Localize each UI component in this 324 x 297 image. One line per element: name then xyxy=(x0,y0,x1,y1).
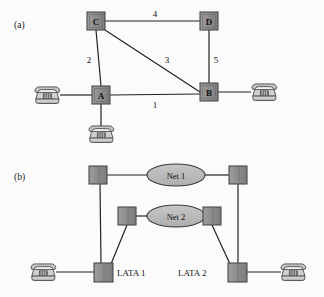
phone-right-b-icon xyxy=(252,84,277,101)
node-A-label: A xyxy=(98,91,105,101)
phone-base xyxy=(32,276,55,281)
switch-mid-left-box[interactable] xyxy=(118,207,136,225)
net-1-cloud[interactable]: Net 1 xyxy=(147,164,205,186)
phone-right-b2-icon xyxy=(281,264,306,281)
node-C-label: C xyxy=(93,17,100,27)
edge-switch-top-left-lata-1 xyxy=(100,184,101,263)
node-C[interactable]: C xyxy=(87,12,105,30)
lata-2-label: LATA 2 xyxy=(178,268,207,278)
phone-handset xyxy=(35,87,60,93)
net-2-cloud[interactable]: Net 2 xyxy=(147,205,205,227)
phone-handset xyxy=(252,84,277,90)
figure-container: (a) 4 2 3 5 1 C D xyxy=(0,0,324,297)
edge-label-D-B: 5 xyxy=(214,55,219,65)
net-2-label: Net 2 xyxy=(167,212,186,222)
edge-C-B xyxy=(105,30,200,92)
panel-a-edges xyxy=(60,21,251,126)
edge-switch-mid-left-lata-1 xyxy=(111,225,127,264)
switch-top-left-box[interactable] xyxy=(89,166,107,184)
switch-lata-2[interactable] xyxy=(228,263,247,282)
edge-A-B xyxy=(110,94,200,95)
phone-base xyxy=(282,276,305,281)
edge-C-A xyxy=(96,30,101,86)
panel-b: (b) Net 1 xyxy=(14,164,306,282)
node-D-label: D xyxy=(206,17,213,27)
node-A[interactable]: A xyxy=(92,86,110,104)
phone-left-b-icon xyxy=(31,264,56,281)
lata-1-label: LATA 1 xyxy=(117,268,146,278)
switch-lata-2-box[interactable] xyxy=(228,263,247,282)
switch-lata-1[interactable] xyxy=(94,263,113,282)
phone-base xyxy=(90,138,113,143)
phone-base xyxy=(253,96,276,101)
edge-switch-mid-right-lata-2 xyxy=(212,225,230,264)
figure-canvas: (a) 4 2 3 5 1 C D xyxy=(0,0,324,297)
switch-lata-1-box[interactable] xyxy=(94,263,113,282)
panel-b-label: (b) xyxy=(14,172,25,183)
phone-left-a-icon xyxy=(35,87,60,104)
switch-top-right[interactable] xyxy=(229,166,247,184)
edge-label-A-B: 1 xyxy=(153,100,158,110)
node-D[interactable]: D xyxy=(200,12,218,30)
panel-a: (a) 4 2 3 5 1 C D xyxy=(14,9,277,142)
switch-mid-right-box[interactable] xyxy=(203,207,221,225)
node-B[interactable]: B xyxy=(200,83,218,101)
phone-handset xyxy=(31,264,56,270)
phone-handset xyxy=(89,126,114,132)
edge-label-C-D: 4 xyxy=(153,9,158,19)
switch-top-left[interactable] xyxy=(89,166,107,184)
net-1-label: Net 1 xyxy=(167,171,186,181)
switch-mid-right[interactable] xyxy=(203,207,221,225)
phone-handset xyxy=(281,264,306,270)
switch-top-right-box[interactable] xyxy=(229,166,247,184)
phone-base xyxy=(36,99,59,104)
edge-label-C-A: 2 xyxy=(87,55,92,65)
panel-a-label: (a) xyxy=(14,20,25,31)
switch-mid-left[interactable] xyxy=(118,207,136,225)
node-B-label: B xyxy=(206,88,212,98)
edge-label-C-B: 3 xyxy=(165,55,170,65)
phone-below-a-icon xyxy=(89,126,114,143)
